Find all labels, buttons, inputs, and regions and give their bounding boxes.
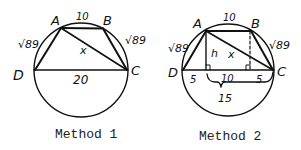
segment-ab	[61, 28, 103, 29]
label-seg-left-5: 5	[190, 74, 196, 85]
figure-method-1: A B C D 10 √89 √89 x 20 Method 1	[13, 11, 146, 142]
caption-method-2: Method 2	[199, 129, 261, 144]
diagonal-ac	[61, 28, 127, 70]
label-brace-15: 15	[218, 92, 232, 105]
label-left-sqrt89-2: √89	[168, 42, 189, 55]
label-top-10-2: 10	[223, 12, 236, 23]
vertex-b-label-2: B	[251, 16, 260, 31]
vertex-d-label: D	[13, 67, 24, 83]
label-height-h: h	[211, 47, 218, 60]
label-right-sqrt89: √89	[125, 34, 146, 47]
diagram-stage: A B C D 10 √89 √89 x 20 Method 1 A B C	[0, 0, 301, 150]
vertex-b-label: B	[103, 13, 112, 28]
vertex-a-label-2: A	[192, 16, 202, 31]
label-right-sqrt89-2: √89	[269, 39, 290, 52]
label-bottom-20: 20	[73, 73, 89, 87]
vertex-a-label: A	[50, 13, 60, 28]
vertex-c-label-2: C	[277, 64, 287, 79]
label-diagonal-x: x	[79, 44, 87, 57]
caption-method-1: Method 1	[55, 127, 118, 142]
label-top-10: 10	[76, 11, 89, 22]
figure-method-2: A B C D 10 √89 √89 h x 5 10 5 15 Method …	[168, 12, 290, 144]
label-left-sqrt89: √89	[18, 38, 39, 51]
label-diagonal-x-2: x	[227, 48, 235, 61]
label-seg-mid-10: 10	[221, 73, 234, 84]
label-seg-right-5: 5	[256, 74, 262, 85]
brace-15	[207, 72, 273, 87]
vertex-d-label-2: D	[168, 65, 178, 80]
vertex-c-label: C	[131, 63, 141, 78]
diagram-canvas: A B C D 10 √89 √89 x 20 Method 1 A B C	[0, 0, 301, 150]
